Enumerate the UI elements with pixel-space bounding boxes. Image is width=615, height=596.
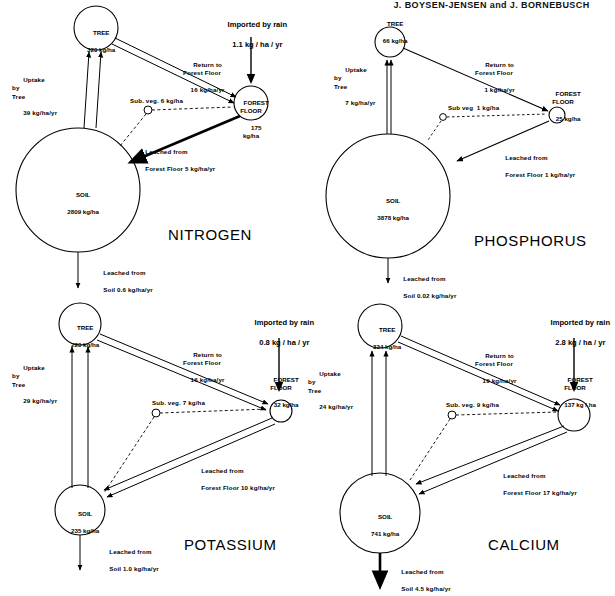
soil-name: SOIL (78, 510, 92, 517)
sub-veg-node (448, 411, 456, 419)
soil-pool-label: SOIL 741 kg/ha (348, 505, 412, 546)
panel-title-phosphorus: PHOSPHORUS (474, 232, 587, 249)
leach-ff-text: Leached from (505, 154, 547, 161)
leach-ff-text: Leached from (145, 148, 187, 155)
uptake-text: Uptake by Tree (308, 370, 341, 393)
uptake-arrow-right (96, 52, 101, 128)
subveg-to-ff-dashed (447, 114, 547, 117)
subveg-to-soil-dashed (104, 417, 154, 493)
leach-ff-label: Leached from Forest Floor 10 kg/ha/yr (190, 459, 275, 500)
panel-title-potassium: POTASSIUM (184, 536, 277, 553)
rain-label: Imported by rain 2.8 kg / ha / yr (504, 308, 615, 358)
rain-value: 2.8 kg / ha / yr (555, 338, 605, 347)
uptake-text: Uptake by Tree (334, 66, 367, 89)
leach-soil-label: Leached from Soil 1.0 kg/ha/yr (98, 540, 159, 581)
leach-ff-value: Forest Floor 5 kg/ha/yr (145, 165, 215, 172)
subveg-to-ff-dashed (152, 107, 233, 110)
soil-name: SOIL (378, 513, 392, 520)
leach-soil-label: Leached from Soil 0.6 kg/ha/yr (92, 261, 153, 302)
tree-name: TREE (387, 20, 404, 27)
tree-name: TREE (77, 324, 94, 331)
soil-value: 3878 kg/ha (377, 214, 409, 221)
rain-text: Imported by rain (551, 318, 611, 327)
tree-pool-label: TREE 66 kg/ha (360, 12, 420, 53)
soil-value: 235 kg/ha (71, 527, 99, 534)
ff-value: 25 kg/ha (556, 115, 581, 122)
ff-value: 137 kg / ha (564, 401, 596, 408)
return-value: 1 kg/ha/yr (484, 86, 514, 93)
sub-veg-node (144, 106, 152, 114)
sub-veg-node (440, 114, 447, 121)
return-value: 16 kg/ha/yr (191, 86, 225, 93)
uptake-label: Uptake by Tree 29 kg/ha/yr (12, 356, 57, 413)
leach-ff-value: Forest Floor 10 kg/ha/yr (201, 484, 275, 491)
panel-potassium: TREE 220 kg/ha SOIL 235 kg/ha FOREST FLO… (0, 298, 301, 596)
forest-floor-pool-label: FOREST FLOOR 137 kg / ha (546, 368, 604, 417)
ff-value: 175 kg/ha (243, 124, 261, 139)
panel-title-nitrogen: NITROGEN (168, 226, 252, 243)
leach-ff-value: Forest Floor 1 kg/ha/yr (505, 171, 575, 178)
tree-value: 66 kg/ha (383, 37, 408, 44)
panel-phosphorus: TREE 66 kg/ha SOIL 3878 kg/ha FOREST FLO… (302, 0, 603, 298)
soil-name: SOIL (386, 197, 400, 204)
return-text: Return to Forest Floor (475, 61, 514, 76)
sub-veg-label: Sub. veg. 9 kg/ha (446, 401, 499, 409)
tree-pool-label: TREE 334 kg/ha (350, 318, 414, 359)
leach-soil-value: Soil 1.0 kg/ha/yr (109, 565, 159, 572)
uptake-label: Uptake by Tree 24 kg/ha/yr (308, 362, 353, 419)
leach-soil-text: Leached from (401, 568, 443, 575)
return-label: Return to Forest Floor 16 kg/ha/yr (152, 53, 252, 102)
panel-nitrogen: TREE 320 kg/ha SOIL 2809 kg/ha FOREST FL… (0, 0, 301, 298)
ff-name: FOREST FLOOR (564, 376, 593, 391)
rain-value: 1.1 kg / ha / yr (232, 40, 282, 49)
subveg-to-soil-dashed (428, 121, 441, 140)
tree-pool-label: TREE 220 kg/ha (50, 316, 110, 357)
uptake-value: 29 kg/ha/yr (23, 397, 57, 404)
leach-soil-label: Leached from Soil 4.5 kg/ha/yr (390, 560, 451, 596)
panel-calcium: TREE 334 kg/ha SOIL 741 kg/ha FOREST FLO… (302, 298, 603, 596)
leach-ff-label: Leached from Forest Floor 1 kg/ha/yr (494, 146, 575, 187)
uptake-label: Uptake by Tree 7 kg/ha/yr (334, 58, 376, 115)
return-label: Return to Forest Floor 1 kg/ha/yr (444, 53, 544, 102)
leach-ff-text: Leached from (201, 467, 243, 474)
rain-text: Imported by rain (228, 20, 288, 29)
ff-name: FOREST FLOOR (270, 376, 299, 391)
leach-soil-value: Soil 0.6 kg/ha/yr (103, 286, 153, 293)
leach-ff-label: Leached from Forest Floor 17 kg/ha/yr (492, 464, 577, 505)
leach-soil-text: Leached from (109, 548, 151, 555)
subveg-to-soil-dashed (410, 419, 450, 480)
leach-soil-text: Leached from (103, 269, 145, 276)
uptake-value: 39 kg/ha/yr (23, 109, 57, 116)
uptake-value: 24 kg/ha/yr (319, 403, 353, 410)
sub-veg-node (152, 409, 160, 417)
subveg-to-ff-dashed (160, 409, 268, 413)
sub-veg-label: Sub veg 1 kg/ha (448, 104, 499, 112)
leach-ff-value: Forest Floor 17 kg/ha/yr (503, 489, 577, 496)
leach-ff-label: Leached from Forest Floor 5 kg/ha/yr (134, 140, 215, 181)
return-value: 16 kg/ha/yr (191, 376, 225, 383)
subveg-to-ff-dashed (456, 412, 558, 415)
tree-value: 334 kg/ha (373, 343, 401, 350)
soil-value: 2809 kg/ha (67, 208, 99, 215)
soil-value: 741 kg/ha (371, 530, 399, 537)
uptake-value: 7 kg/ha/yr (345, 99, 375, 106)
soil-pool-label: SOIL 235 kg/ha (50, 502, 110, 543)
soil-name: SOIL (76, 191, 90, 198)
uptake-text: Uptake by Tree (12, 364, 45, 387)
panel-title-calcium: CALCIUM (488, 536, 560, 553)
uptake-arrow-left (84, 52, 89, 128)
tree-name: TREE (93, 29, 110, 36)
leach-soil-value: Soil 4.5 kg/ha/yr (401, 585, 451, 592)
return-text: Return to Forest Floor (183, 61, 222, 76)
soil-pool-label: SOIL 3878 kg/ha (348, 189, 428, 230)
sub-veg-label: Sub. veg. 7 kg/ha (152, 399, 205, 407)
ff-value: 32 kg/ha (274, 401, 299, 408)
return-value: 19 kg/ha/yr (483, 377, 517, 384)
tree-value: 320 kg/ha (87, 46, 115, 53)
soil-pool-label: SOIL 2809 kg/ha (38, 183, 118, 224)
tree-name: TREE (379, 326, 396, 333)
rain-label: Imported by rain 1.1 kg / ha / yr (186, 10, 316, 60)
leach-soil-text: Leached from (403, 275, 445, 282)
leach-ff-text: Leached from (503, 472, 545, 479)
